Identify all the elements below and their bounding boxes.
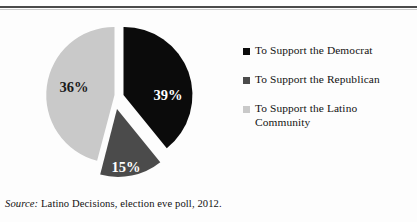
square-marker-icon: [243, 48, 250, 55]
source-note: Source: Latino Decisions, election eve p…: [5, 198, 222, 209]
legend-item-republican[interactable]: To Support the Republican: [243, 73, 415, 87]
legend-item-democrat[interactable]: To Support the Democrat: [243, 44, 415, 58]
square-marker-icon: [243, 106, 250, 113]
pie-chart-svg: 39% 15% 36%: [16, 14, 216, 182]
pie-slice-label-latino: 36%: [60, 79, 89, 95]
source-note-text: Latino Decisions, election eve poll, 201…: [41, 198, 222, 209]
figure-top-rule-secondary: [0, 9, 417, 10]
legend-item-label: To Support the Republican: [255, 73, 380, 87]
legend-item-latino-community[interactable]: To Support the Latino Community: [243, 102, 415, 130]
pie-chart: 39% 15% 36%: [16, 14, 216, 182]
pie-slice-label-republican: 15%: [112, 159, 141, 175]
chart-legend: To Support the Democrat To Support the R…: [243, 44, 415, 145]
square-marker-icon: [243, 77, 250, 84]
pie-slice-label-democrat: 39%: [154, 87, 183, 103]
legend-item-label: To Support the Latino Community: [255, 102, 415, 130]
figure-container: 39% 15% 36% To Support the Democrat To S…: [0, 0, 417, 222]
source-note-prefix: Source:: [5, 198, 38, 209]
figure-top-rule: [0, 6, 417, 8]
legend-item-label: To Support the Democrat: [255, 44, 373, 58]
